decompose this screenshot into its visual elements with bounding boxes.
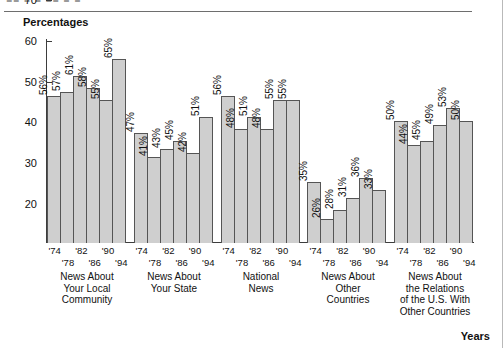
- x-year-label: '86: [435, 257, 448, 269]
- x-year-label: [448, 257, 461, 269]
- bar[interactable]: 43%: [160, 149, 174, 243]
- bar[interactable]: 48%: [234, 129, 248, 243]
- x-year-label: '82: [161, 245, 174, 257]
- bar-group: 56%57%61%58%55%65%: [47, 39, 127, 243]
- bar[interactable]: 65%: [112, 59, 126, 243]
- x-year-label: '86: [348, 257, 361, 269]
- bar[interactable]: 50%: [459, 121, 473, 243]
- x-group-name-line: News About: [47, 271, 127, 283]
- y-tick-mark: [46, 0, 52, 1]
- x-year-label: '78: [60, 257, 73, 269]
- y-tick-label: 70: [15, 0, 37, 6]
- bar-value-label: 58%: [78, 67, 88, 87]
- top-divider: [4, 11, 472, 12]
- bar[interactable]: 42%: [186, 153, 200, 243]
- bar-value-label: 43%: [152, 128, 162, 148]
- x-year-label: '86: [174, 257, 187, 269]
- x-group-name-line: Other: [308, 283, 388, 295]
- x-year-row: '78'86'94: [47, 257, 127, 269]
- bar-value-label: 28%: [325, 189, 335, 209]
- bar-value-label: 45%: [412, 120, 422, 140]
- x-group-name-line: National: [221, 271, 301, 283]
- x-year-label: [375, 245, 388, 257]
- x-year-label: [288, 245, 301, 257]
- x-year-label: [408, 245, 421, 257]
- x-year-row: '74'82'90: [395, 245, 475, 257]
- bar[interactable]: 61%: [73, 76, 87, 243]
- x-year-label: [100, 257, 113, 269]
- x-group-label: '74'82'90'78'86'94News AboutOtherCountri…: [308, 245, 388, 345]
- x-year-label: '82: [74, 245, 87, 257]
- bar[interactable]: 33%: [372, 190, 386, 243]
- x-group-label: '74'82'90'78'86'94News AboutYour State: [134, 245, 214, 345]
- bar-value-label: 61%: [65, 55, 75, 75]
- x-year-label: '94: [462, 257, 475, 269]
- bar-group: 35%26%28%31%36%33%: [307, 39, 387, 243]
- bar-value-label: 55%: [265, 79, 275, 99]
- bar-value-label: 50%: [451, 100, 461, 120]
- x-group-name: News AboutYour LocalCommunity: [47, 271, 127, 306]
- bar-value-label: 65%: [104, 38, 114, 58]
- bar[interactable]: 53%: [446, 108, 460, 243]
- x-year-label: [174, 245, 187, 257]
- x-year-row: '74'82'90: [308, 245, 388, 257]
- bar[interactable]: 56%: [47, 96, 61, 243]
- bar[interactable]: 31%: [346, 198, 360, 243]
- bar-value-label: 55%: [91, 79, 101, 99]
- x-year-label: '94: [201, 257, 214, 269]
- x-year-label: '82: [335, 245, 348, 257]
- x-year-label: [161, 257, 174, 269]
- x-year-label: '94: [114, 257, 127, 269]
- bar-value-label: 41%: [139, 136, 149, 156]
- bar[interactable]: 57%: [60, 92, 74, 243]
- x-year-row: '78'86'94: [395, 257, 475, 269]
- bar-value-label: 33%: [364, 169, 374, 189]
- x-year-label: [274, 257, 287, 269]
- x-year-row: '74'82'90: [47, 245, 127, 257]
- x-year-label: [114, 245, 127, 257]
- y-tick-label: 40: [15, 116, 37, 128]
- bar-group: 56%48%51%48%55%55%: [221, 39, 301, 243]
- x-year-label: [308, 257, 321, 269]
- x-year-label: '90: [448, 245, 461, 257]
- bar[interactable]: 55%: [99, 100, 113, 243]
- x-year-label: '82: [422, 245, 435, 257]
- bar[interactable]: 58%: [86, 88, 100, 243]
- x-year-label: [47, 257, 60, 269]
- x-year-label: '78: [147, 257, 160, 269]
- bar[interactable]: 48%: [260, 129, 274, 243]
- x-year-label: [221, 257, 234, 269]
- x-year-label: '94: [375, 257, 388, 269]
- bar-value-label: 31%: [338, 177, 348, 197]
- bar[interactable]: 41%: [147, 157, 161, 243]
- bar[interactable]: 45%: [173, 141, 187, 243]
- x-year-label: '90: [100, 245, 113, 257]
- x-group-name-line: News About: [134, 271, 214, 283]
- bar[interactable]: 44%: [407, 145, 421, 243]
- right-page-border: [502, 0, 503, 348]
- bar[interactable]: 51%: [199, 117, 213, 243]
- x-year-label: [261, 245, 274, 257]
- bar[interactable]: 45%: [420, 141, 434, 243]
- x-year-label: '90: [187, 245, 200, 257]
- x-year-label: '86: [87, 257, 100, 269]
- x-group-name-line: of the U.S. With: [395, 294, 475, 306]
- x-year-label: [74, 257, 87, 269]
- x-group-name-line: Your Local: [47, 283, 127, 295]
- x-group-label: '74'82'90'78'86'94NationalNews: [221, 245, 301, 345]
- bar[interactable]: 28%: [333, 210, 347, 243]
- x-year-label: [134, 257, 147, 269]
- bar-value-label: 48%: [226, 108, 236, 128]
- x-group-name-line: the Relations: [395, 283, 475, 295]
- bar-value-label: 49%: [425, 104, 435, 124]
- bar[interactable]: 51%: [247, 117, 261, 243]
- bar[interactable]: 55%: [273, 100, 287, 243]
- x-year-row: '78'86'94: [134, 257, 214, 269]
- x-group-name: News AboutYour State: [134, 271, 214, 294]
- x-group-name: News Aboutthe Relationsof the U.S. WithO…: [395, 271, 475, 317]
- x-year-label: [201, 245, 214, 257]
- bar[interactable]: 26%: [320, 219, 334, 243]
- bar[interactable]: 49%: [433, 125, 447, 243]
- y-tick-label: 50: [15, 76, 37, 88]
- x-year-label: [395, 257, 408, 269]
